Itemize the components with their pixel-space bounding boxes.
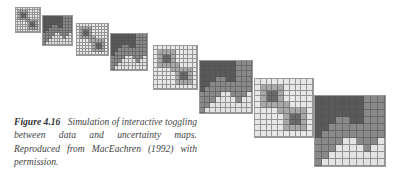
map-cell <box>350 145 357 152</box>
map-cell <box>336 96 343 103</box>
map-cell <box>38 30 40 32</box>
map-cell <box>350 131 357 138</box>
map-cell <box>322 103 329 110</box>
map-cell <box>378 152 385 159</box>
map-cell <box>105 52 108 55</box>
map-cell <box>343 110 350 117</box>
map-cell <box>343 131 350 138</box>
map-cell <box>329 110 336 117</box>
map-cell <box>357 103 364 110</box>
map-cell <box>350 103 357 110</box>
uncertainty-map-panel <box>15 7 41 33</box>
map-cell <box>364 145 371 152</box>
map-cell <box>343 159 350 166</box>
figure-caption: Figure 4.16 Simulation of interactive to… <box>14 115 197 169</box>
map-cell <box>350 110 357 117</box>
map-cell <box>371 152 378 159</box>
map-cell <box>371 96 378 103</box>
figure-label: Figure 4.16 <box>14 116 60 127</box>
map-cell <box>357 145 364 152</box>
map-cell <box>315 138 322 145</box>
map-cell <box>336 145 343 152</box>
map-cell <box>329 117 336 124</box>
map-cell <box>343 138 350 145</box>
map-cell <box>357 117 364 124</box>
map-cell <box>322 96 329 103</box>
map-cell <box>336 131 343 138</box>
map-cell <box>315 124 322 131</box>
map-cell <box>357 110 364 117</box>
map-cell <box>378 138 385 145</box>
map-cell <box>364 159 371 166</box>
map-cell <box>350 117 357 124</box>
map-cell <box>329 96 336 103</box>
map-cell <box>322 131 329 138</box>
map-cell <box>350 138 357 145</box>
map-cell <box>357 138 364 145</box>
map-cell <box>315 131 322 138</box>
map-cell <box>247 108 252 113</box>
map-cell <box>315 117 322 124</box>
map-cell <box>364 96 371 103</box>
data-map-panel <box>110 33 148 71</box>
map-cell <box>336 103 343 110</box>
map-cell <box>322 152 329 159</box>
map-cell <box>378 96 385 103</box>
map-cell <box>315 103 322 110</box>
map-cell <box>350 152 357 159</box>
map-cell <box>193 85 197 89</box>
map-cell <box>378 131 385 138</box>
map-cell <box>371 145 378 152</box>
uncertainty-map-panel <box>76 23 109 56</box>
uncertainty-map-panel <box>153 45 198 90</box>
map-cell <box>322 159 329 166</box>
map-cell <box>329 103 336 110</box>
map-cell <box>371 138 378 145</box>
map-cell <box>364 138 371 145</box>
map-cell <box>329 159 336 166</box>
map-cell <box>378 110 385 117</box>
map-cell <box>371 103 378 110</box>
map-cell <box>69 42 72 45</box>
map-cell <box>378 159 385 166</box>
map-cell <box>336 152 343 159</box>
map-cell <box>315 159 322 166</box>
map-cell <box>364 110 371 117</box>
map-cell <box>343 117 350 124</box>
map-cell <box>322 145 329 152</box>
map-cell <box>329 131 336 138</box>
uncertainty-map-panel <box>254 78 314 138</box>
map-cell <box>371 110 378 117</box>
map-cell <box>364 103 371 110</box>
map-cell <box>336 138 343 145</box>
map-cell <box>378 117 385 124</box>
map-cell <box>315 145 322 152</box>
map-cell <box>336 117 343 124</box>
map-cell <box>343 124 350 131</box>
map-cell <box>336 110 343 117</box>
map-cell <box>357 159 364 166</box>
map-cell <box>357 124 364 131</box>
map-cell <box>329 138 336 145</box>
map-cell <box>329 124 336 131</box>
map-cell <box>307 131 313 137</box>
map-cell <box>350 159 357 166</box>
map-cell <box>364 131 371 138</box>
map-cell <box>143 66 147 70</box>
map-cell <box>315 152 322 159</box>
map-cell <box>350 96 357 103</box>
data-map-panel <box>314 95 386 167</box>
map-cell <box>322 138 329 145</box>
map-cell <box>336 159 343 166</box>
map-cell <box>371 159 378 166</box>
map-cell <box>350 124 357 131</box>
map-cell <box>378 145 385 152</box>
map-cell <box>322 110 329 117</box>
map-cell <box>357 152 364 159</box>
map-cell <box>357 131 364 138</box>
map-cell <box>371 117 378 124</box>
map-cell <box>315 110 322 117</box>
map-cell <box>364 152 371 159</box>
map-cell <box>329 152 336 159</box>
map-cell <box>343 152 350 159</box>
